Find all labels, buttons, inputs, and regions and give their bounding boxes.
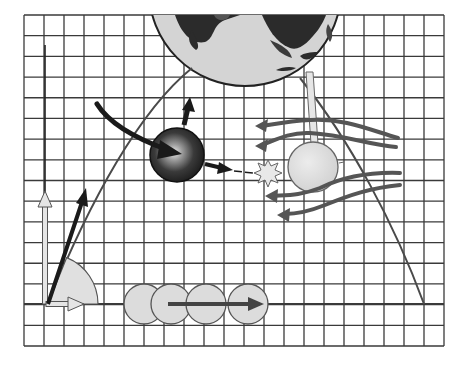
wind-arrow-2 xyxy=(262,133,396,147)
physics-diagram xyxy=(0,0,471,365)
sphere-tick xyxy=(339,162,344,163)
vertical-velocity-arrow xyxy=(38,191,52,304)
diagram-canvas xyxy=(0,0,471,365)
impact-starburst-icon xyxy=(254,160,282,187)
outgoing-short-arrow xyxy=(205,162,233,174)
